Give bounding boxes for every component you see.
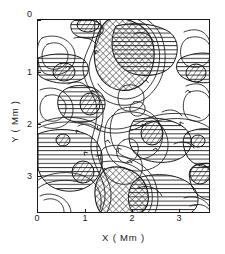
plot-area bbox=[37, 19, 210, 213]
y-tick-label-3: 3 bbox=[18, 172, 32, 181]
contour-figure: 0 1 2 3 0 1 2 3 X ( Mm ) Y ( Mm ) bbox=[0, 0, 225, 254]
x-tick-label-0: 0 bbox=[34, 214, 39, 223]
y-tick-label-1: 1 bbox=[18, 68, 32, 77]
y-tick-mark-1 bbox=[37, 72, 41, 73]
x-tick-label-3: 3 bbox=[176, 214, 181, 223]
x-axis-title: X ( Mm ) bbox=[37, 232, 210, 243]
y-tick-label-0: 0 bbox=[18, 10, 32, 19]
y-tick-mark-2 bbox=[37, 124, 41, 125]
x-tick-label-1: 1 bbox=[82, 214, 87, 223]
y-tick-label-2: 2 bbox=[18, 120, 32, 129]
y-tick-mark-3 bbox=[37, 176, 41, 177]
x-tick-label-2: 2 bbox=[129, 214, 134, 223]
contour-canvas bbox=[38, 20, 210, 213]
y-axis-title: Y ( Mm ) bbox=[9, 77, 20, 167]
y-tick-mark-0 bbox=[37, 20, 41, 21]
